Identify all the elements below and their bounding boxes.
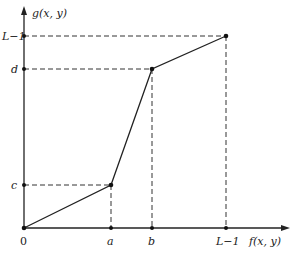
point-b-d [150,67,155,72]
tick-l1-x [224,226,228,230]
tick-b [150,226,154,230]
y-axis-arrow-icon [21,6,27,15]
y-axis-label: g(x, y) [32,7,67,20]
tick-c [22,183,26,187]
x-tick-a-label: a [107,235,114,248]
point-origin [22,226,27,231]
transform-curve [24,36,226,228]
point-a-c [109,183,114,188]
y-tick-c-label: c [11,179,17,192]
origin-label: 0 [20,235,27,248]
x-tick-l1-label: L−1 [215,235,240,248]
tick-a [109,226,113,230]
y-tick-d-label: d [11,63,18,76]
x-tick-b-label: b [148,235,155,248]
point-l1-l1 [224,34,229,39]
guide-lines [24,36,226,228]
transform-diagram: g(x, y) f(x, y) 0 a b L−1 c d L−1 [0,0,308,257]
x-axis-arrow-icon [281,225,290,231]
y-tick-l1-label: L−1 [1,30,26,43]
x-axis-label: f(x, y) [248,235,281,248]
points [22,34,229,231]
tick-d [22,67,26,71]
